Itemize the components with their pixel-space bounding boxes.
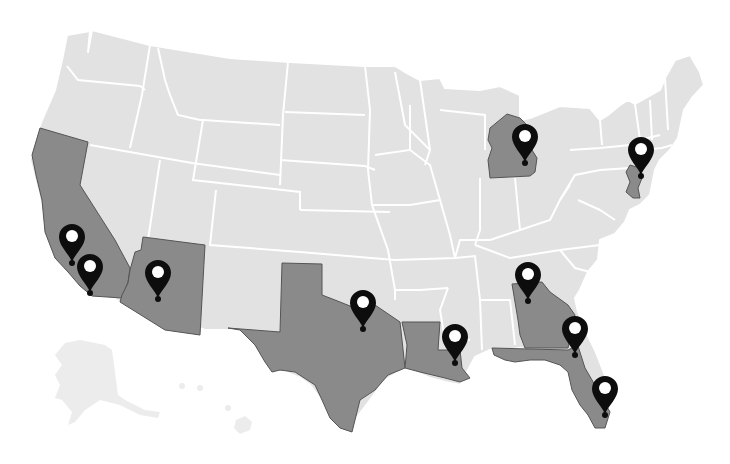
us-map-svg [0,0,730,464]
hawaii [234,416,252,434]
hawaii-island-small [179,383,185,389]
alaska [55,340,160,425]
hawaii-island-small [225,405,231,411]
us-map [0,0,730,464]
hawaii-island-small [197,385,203,391]
